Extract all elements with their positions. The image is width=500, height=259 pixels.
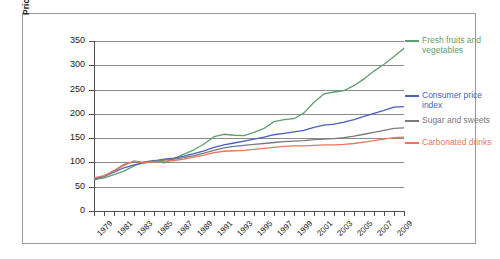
x-tick xyxy=(214,212,215,216)
x-tick xyxy=(364,212,365,216)
x-tick xyxy=(394,212,395,216)
x-tick xyxy=(334,212,335,216)
x-tick xyxy=(144,212,145,216)
legend-swatch-icon xyxy=(405,95,419,97)
x-tick xyxy=(134,212,135,216)
x-tick xyxy=(224,212,225,216)
series-line xyxy=(94,137,404,178)
legend-label: Sugar and sweets xyxy=(422,115,500,125)
x-tick xyxy=(354,212,355,216)
legend-label: Carbonated drinks xyxy=(422,137,500,147)
x-tick xyxy=(344,212,345,216)
x-tick xyxy=(304,212,305,216)
x-tick xyxy=(274,212,275,216)
x-tick xyxy=(244,212,245,216)
series-lines xyxy=(94,41,404,211)
x-tick xyxy=(324,212,325,216)
chart-frame: Price Index (1982–1984 = 100) 0501001502… xyxy=(22,13,476,244)
x-axis-line xyxy=(94,211,405,212)
x-tick xyxy=(264,212,265,216)
y-tick-label: 300 xyxy=(41,60,85,69)
x-tick xyxy=(124,212,125,216)
x-tick xyxy=(164,212,165,216)
legend-swatch-icon xyxy=(405,40,419,42)
x-tick xyxy=(204,212,205,216)
x-tick xyxy=(114,212,115,216)
y-tick-label: 150 xyxy=(41,133,85,142)
x-tick xyxy=(374,212,375,216)
y-tick-label: 250 xyxy=(41,85,85,94)
x-tick xyxy=(314,212,315,216)
x-tick xyxy=(94,212,95,216)
x-tick xyxy=(284,212,285,216)
legend-swatch-icon xyxy=(405,142,419,144)
legend-label: Consumer price index xyxy=(422,90,500,110)
plot-area: 050100150200250300350 197919811983198519… xyxy=(94,41,404,211)
y-tick-label: 100 xyxy=(41,157,85,166)
x-tick xyxy=(294,212,295,216)
series-line xyxy=(94,48,404,180)
y-tick-label: 200 xyxy=(41,109,85,118)
x-tick xyxy=(184,212,185,216)
x-tick xyxy=(404,212,405,216)
x-tick xyxy=(104,212,105,216)
x-tick xyxy=(174,212,175,216)
legend-swatch-icon xyxy=(405,120,419,122)
x-tick xyxy=(234,212,235,216)
y-tick-label: 350 xyxy=(41,36,85,45)
x-tick xyxy=(194,212,195,216)
series-line xyxy=(94,128,404,179)
x-tick xyxy=(254,212,255,216)
x-tick xyxy=(154,212,155,216)
y-tick-label: 50 xyxy=(41,182,85,191)
x-tick xyxy=(384,212,385,216)
legend-label: Fresh fruits and vegetables xyxy=(422,35,500,55)
y-axis-title: Price Index (1982–1984 = 100) xyxy=(21,0,35,40)
y-tick-label: 0 xyxy=(41,206,85,215)
